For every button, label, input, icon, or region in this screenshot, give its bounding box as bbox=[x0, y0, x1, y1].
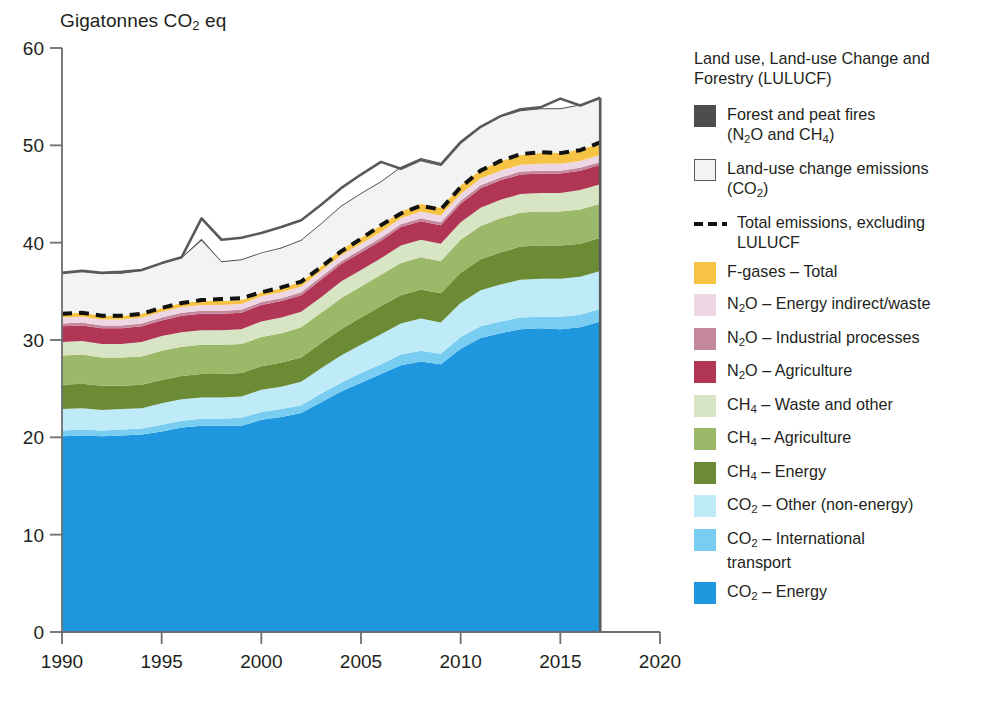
x-axis-tick-label: 1990 bbox=[27, 652, 97, 671]
legend-item-label: CO2 – Internationaltransport bbox=[727, 528, 1006, 573]
legend-item-label: Total emissions, excludingLULUCF bbox=[737, 212, 1006, 252]
chart-legend: Land use, Land-use Change and Forestry (… bbox=[694, 48, 1006, 615]
legend-swatch-icon bbox=[694, 294, 716, 316]
legend-item-label: N2O – Agriculture bbox=[727, 360, 1006, 385]
legend-item-total-emissions-excluding-lulucf[interactable]: Total emissions, excludingLULUCF bbox=[694, 212, 1006, 252]
legend-item-label: F-gases – Total bbox=[727, 261, 1006, 281]
legend-swatch-icon bbox=[694, 462, 716, 484]
emissions-stacked-area-chart: Gigatonnes CO2 eq 0102030405060199019952… bbox=[0, 0, 690, 701]
legend-swatch-icon bbox=[694, 159, 716, 181]
y-axis-tick-label: 40 bbox=[0, 234, 44, 253]
x-axis-tick-label: 2020 bbox=[625, 652, 695, 671]
y-axis-tick-label: 50 bbox=[0, 136, 44, 155]
legend-heading: Land use, Land-use Change and Forestry (… bbox=[694, 48, 934, 88]
x-axis-tick-label: 2010 bbox=[426, 652, 496, 671]
legend-item-list: Forest and peat fires(N2O and CH4)Land-u… bbox=[694, 104, 1006, 606]
x-axis-tick-label: 2005 bbox=[326, 652, 396, 671]
legend-item-ch4-agriculture[interactable]: CH4 – Agriculture bbox=[694, 427, 1006, 452]
legend-swatch-icon bbox=[694, 395, 716, 417]
legend-item-n2o-industrial-processes[interactable]: N2O – Industrial processes bbox=[694, 327, 1006, 352]
legend-item-f-gases-total[interactable]: F-gases – Total bbox=[694, 261, 1006, 284]
chart-page: Gigatonnes CO2 eq 0102030405060199019952… bbox=[0, 0, 1006, 701]
legend-swatch-icon bbox=[694, 582, 716, 604]
y-axis-tick-label: 0 bbox=[0, 623, 44, 642]
x-axis-tick-label: 2015 bbox=[525, 652, 595, 671]
legend-swatch-icon bbox=[694, 529, 716, 551]
legend-item-label: N2O – Industrial processes bbox=[727, 327, 1006, 352]
legend-item-land-use-change-emissions[interactable]: Land-use change emissions(CO2) bbox=[694, 158, 1006, 203]
legend-swatch-icon bbox=[694, 361, 716, 383]
legend-item-forest-and-peat-fires[interactable]: Forest and peat fires(N2O and CH4) bbox=[694, 104, 1006, 149]
legend-swatch-icon bbox=[694, 495, 716, 517]
legend-item-label: CO2 – Other (non-energy) bbox=[727, 494, 1006, 519]
legend-swatch-icon bbox=[694, 428, 716, 450]
legend-item-n2o-energy-indirect-waste[interactable]: N2O – Energy indirect/waste bbox=[694, 293, 1006, 318]
x-axis-tick-label: 1995 bbox=[127, 652, 197, 671]
y-axis-tick-label: 10 bbox=[0, 526, 44, 545]
legend-item-co2-energy[interactable]: CO2 – Energy bbox=[694, 581, 1006, 606]
dashed-line-key-icon bbox=[694, 213, 727, 235]
plot-canvas bbox=[0, 0, 690, 701]
y-axis-tick-label: 60 bbox=[0, 39, 44, 58]
legend-item-n2o-agriculture[interactable]: N2O – Agriculture bbox=[694, 360, 1006, 385]
legend-item-co2-international-transport[interactable]: CO2 – Internationaltransport bbox=[694, 528, 1006, 573]
legend-item-label: Forest and peat fires(N2O and CH4) bbox=[727, 104, 1006, 149]
legend-item-label: Land-use change emissions(CO2) bbox=[727, 158, 1006, 203]
legend-swatch-icon bbox=[694, 328, 716, 350]
legend-swatch-icon bbox=[694, 262, 716, 284]
legend-item-label: CO2 – Energy bbox=[727, 581, 1006, 606]
legend-item-ch4-energy[interactable]: CH4 – Energy bbox=[694, 461, 1006, 486]
legend-item-label: CH4 – Energy bbox=[727, 461, 1006, 486]
legend-item-ch4-waste-and-other[interactable]: CH4 – Waste and other bbox=[694, 394, 1006, 419]
legend-item-label: CH4 – Agriculture bbox=[727, 427, 1006, 452]
y-axis-tick-label: 30 bbox=[0, 331, 44, 350]
legend-swatch-icon bbox=[694, 105, 716, 127]
legend-item-label: N2O – Energy indirect/waste bbox=[727, 293, 1006, 318]
legend-item-co2-other-non-energy[interactable]: CO2 – Other (non-energy) bbox=[694, 494, 1006, 519]
legend-item-label: CH4 – Waste and other bbox=[727, 394, 1006, 419]
x-axis-tick-label: 2000 bbox=[226, 652, 296, 671]
y-axis-tick-label: 20 bbox=[0, 428, 44, 447]
